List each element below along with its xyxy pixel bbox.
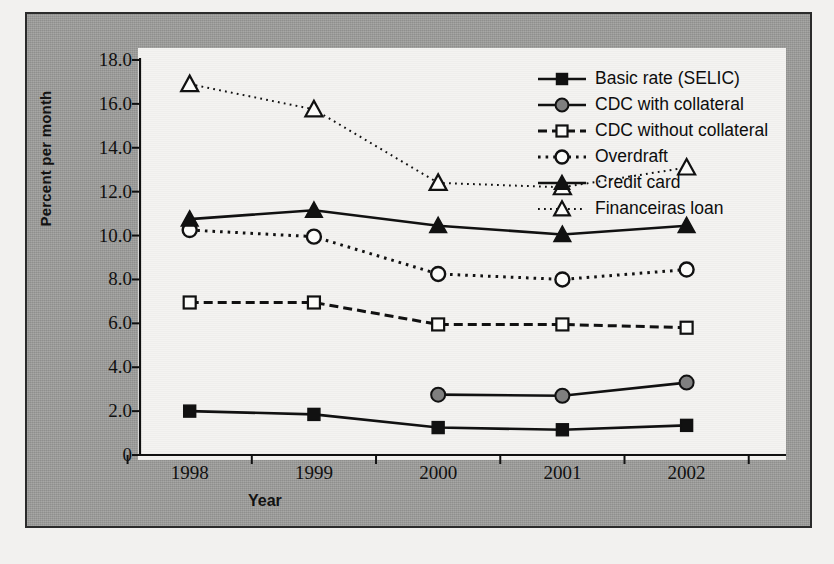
data-point-marker bbox=[308, 408, 320, 420]
x-tick-label: 1998 bbox=[171, 462, 209, 484]
legend-label: Financeiras loan bbox=[595, 198, 723, 219]
legend-item[interactable]: Basic rate (SELIC) bbox=[536, 66, 768, 91]
data-point-marker bbox=[184, 296, 196, 308]
legend-marker-open-triangle bbox=[536, 198, 588, 220]
series-cdc-with-collateral bbox=[431, 376, 693, 403]
data-point-marker bbox=[556, 150, 569, 163]
x-tick-label: 2000 bbox=[419, 462, 457, 484]
data-point-marker bbox=[556, 318, 568, 330]
x-tick-label: 1999 bbox=[295, 462, 333, 484]
legend-label: Basic rate (SELIC) bbox=[595, 68, 740, 89]
data-point-marker bbox=[680, 376, 694, 390]
legend-marker-filled-circle bbox=[536, 94, 588, 116]
x-axis-title: Year bbox=[248, 492, 282, 510]
data-point-marker bbox=[431, 267, 445, 281]
legend-marker-filled-triangle bbox=[536, 172, 588, 194]
x-tick-label: 2001 bbox=[543, 462, 581, 484]
legend-label: Credit card bbox=[595, 172, 681, 193]
series-cdc-without-collateral bbox=[184, 296, 693, 333]
legend-label: CDC with collateral bbox=[595, 94, 744, 115]
legend-marker-open-circle bbox=[536, 146, 588, 168]
data-point-marker bbox=[555, 272, 569, 286]
data-point-marker bbox=[555, 389, 569, 403]
data-point-marker bbox=[680, 263, 694, 277]
legend-marker-filled-square bbox=[536, 68, 588, 90]
chart-legend: Basic rate (SELIC)CDC with collateralCDC… bbox=[536, 66, 768, 221]
data-point-marker bbox=[556, 125, 567, 136]
legend-marker-open-square bbox=[536, 120, 588, 142]
legend-item[interactable]: CDC with collateral bbox=[536, 92, 768, 117]
data-point-marker bbox=[308, 296, 320, 308]
legend-item[interactable]: Credit card bbox=[536, 170, 768, 195]
data-point-marker bbox=[307, 230, 321, 244]
chart-screenshot: 02.04.06.08.010.012.014.016.018.0 Percen… bbox=[0, 0, 834, 564]
legend-label: Overdraft bbox=[595, 146, 668, 167]
legend-item[interactable]: Overdraft bbox=[536, 144, 768, 169]
legend-item[interactable]: CDC without collateral bbox=[536, 118, 768, 143]
data-point-marker bbox=[556, 98, 569, 111]
data-point-marker bbox=[432, 422, 444, 434]
data-point-marker bbox=[556, 73, 567, 84]
legend-item[interactable]: Financeiras loan bbox=[536, 196, 768, 221]
legend-label: CDC without collateral bbox=[595, 120, 768, 141]
data-point-marker bbox=[184, 405, 196, 417]
x-tick-label: 2002 bbox=[668, 462, 706, 484]
data-point-marker bbox=[556, 424, 568, 436]
series-basic-rate-selic- bbox=[184, 405, 693, 436]
data-point-marker bbox=[181, 76, 198, 91]
data-point-marker bbox=[432, 318, 444, 330]
data-point-marker bbox=[681, 322, 693, 334]
data-point-marker bbox=[431, 388, 445, 402]
data-point-marker bbox=[681, 419, 693, 431]
